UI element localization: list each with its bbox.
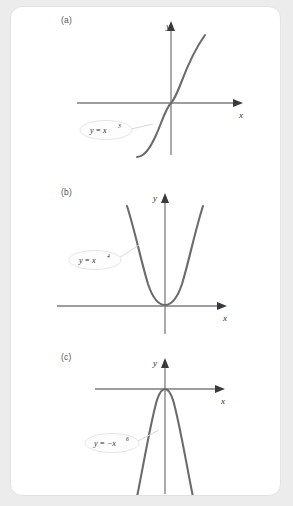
equation-c-base: y = −x	[93, 439, 116, 448]
y-axis-arrow-icon	[161, 193, 169, 203]
equation-b-base: y = x	[78, 256, 96, 265]
figure-card: (a) y = x 3 y x (b)	[10, 6, 281, 496]
panel-a: (a) y = x 3 y x	[11, 7, 281, 179]
x-axis-label-b: x	[222, 313, 227, 323]
y-axis-arrow-icon	[161, 358, 169, 368]
y-axis-label-c: y	[152, 358, 157, 368]
callout-leader-a	[131, 124, 153, 129]
callout-leader-b	[119, 245, 139, 258]
x-axis-arrow-icon	[233, 99, 243, 107]
x-axis-label-a: x	[238, 110, 243, 120]
x-axis-label-c: x	[220, 396, 225, 406]
equation-a-exponent: 3	[117, 123, 121, 129]
panel-a-graph: y = x 3 y x	[11, 7, 281, 179]
panel-c-graph: y = −x 6 y x	[11, 344, 281, 496]
panel-b-graph: y = x 4 y x	[11, 179, 281, 344]
equation-a-base: y = x	[89, 126, 107, 135]
x-axis-arrow-icon	[215, 385, 225, 393]
equation-c-exponent: 6	[126, 436, 129, 442]
y-axis-label-a: y	[165, 21, 170, 31]
panel-c: (c) y = −x 6 y x	[11, 344, 281, 496]
equation-b-exponent: 4	[107, 253, 110, 259]
x-axis-arrow-icon	[217, 302, 227, 310]
y-axis-label-b: y	[152, 193, 157, 203]
panel-b: (b) y = x 4 y x	[11, 179, 281, 344]
